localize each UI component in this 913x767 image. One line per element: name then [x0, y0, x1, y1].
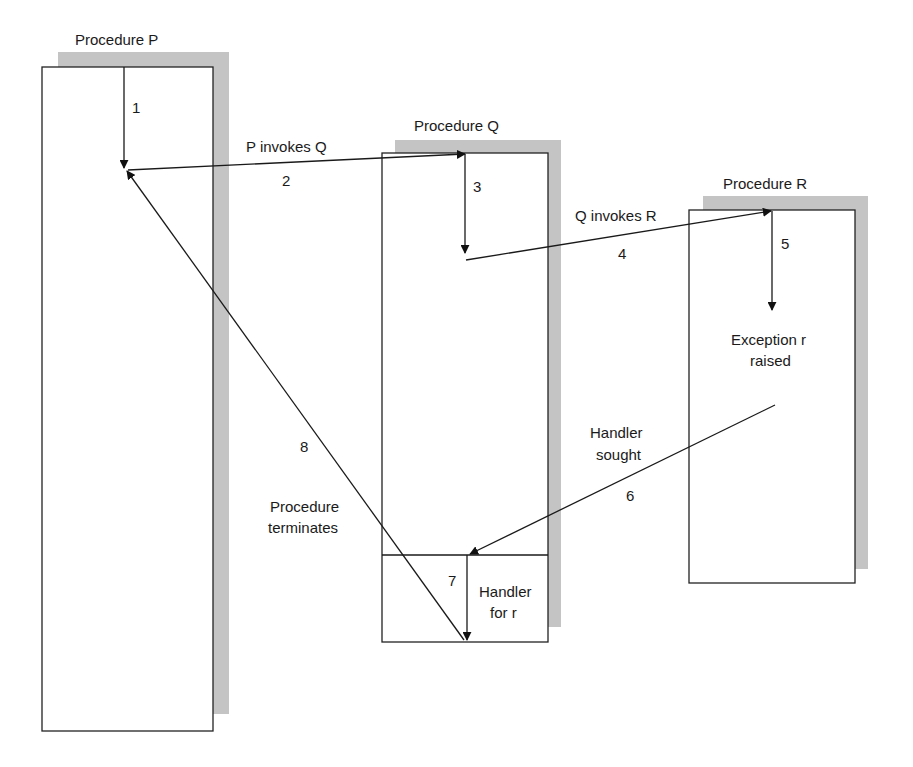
diagram-canvas: Procedure P Procedure Q Handler for r Pr…	[0, 0, 913, 767]
handler-label-line1: Handler	[479, 583, 532, 600]
step-6-label-line1: Handler	[590, 424, 643, 441]
step-6-label-line2: sought	[596, 446, 642, 463]
step-2-number: 2	[282, 172, 290, 189]
procedure-p: Procedure P	[42, 31, 229, 731]
step-8-number: 8	[300, 438, 308, 455]
procedure-q-title: Procedure Q	[414, 117, 499, 134]
procedure-p-title: Procedure P	[75, 31, 158, 48]
step-8-label-line1: Procedure	[270, 498, 339, 515]
procedure-r-title: Procedure R	[723, 175, 807, 192]
step-5-number: 5	[781, 235, 789, 252]
step-6-number: 6	[626, 487, 634, 504]
step-4-number: 4	[618, 245, 626, 262]
exception-label-line1: Exception r	[731, 331, 806, 348]
step-2-label: P invokes Q	[246, 138, 327, 155]
procedure-r: Procedure R Exception r raised	[689, 175, 868, 583]
exception-label-line2: raised	[750, 352, 791, 369]
handler-label-line2: for r	[490, 604, 517, 621]
step-1-number: 1	[132, 99, 140, 116]
step-8-label-line2: terminates	[268, 519, 338, 536]
step-3-number: 3	[473, 178, 481, 195]
step-4-label: Q invokes R	[575, 207, 657, 224]
step-7-number: 7	[448, 572, 456, 589]
